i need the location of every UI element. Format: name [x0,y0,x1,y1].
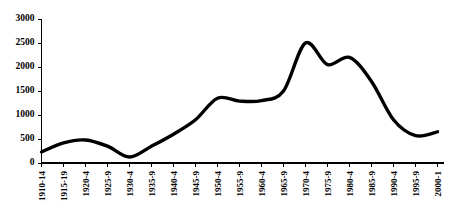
x-axis: 1910-141915-191920-41925-91930-41935-919… [37,163,444,201]
y-tick-label: 0 [30,157,35,167]
x-tick-label: 1925-9 [103,171,113,197]
data-line-value [42,42,438,157]
x-tick-label: 1970-4 [301,171,311,197]
x-tick-label: 2000-1 [433,171,443,197]
x-tick-label: 1995-9 [411,171,421,197]
y-tick-label: 2000 [16,61,35,71]
line-chart: 050010001500200025003000 1910-141915-191… [0,0,456,218]
x-tick-label: 1915-19 [59,171,69,201]
x-tick-label: 1990-4 [389,171,399,197]
chart-container: 050010001500200025003000 1910-141915-191… [0,0,456,218]
y-tick-label: 3000 [16,13,35,23]
x-tick-label: 1950-4 [213,171,223,197]
y-axis: 050010001500200025003000 [16,13,42,167]
data-series-group [42,42,438,157]
y-tick-label: 1500 [16,85,35,95]
y-tick-label: 500 [20,133,35,143]
x-tick-label: 1935-9 [147,171,157,197]
x-tick-label: 1930-4 [125,171,135,197]
x-tick-label: 1940-4 [169,171,179,197]
x-tick-label: 1965-9 [279,171,289,197]
x-tick-label: 1975-9 [323,171,333,197]
x-tick-label: 1960-4 [257,171,267,197]
y-tick-label: 2500 [16,37,35,47]
y-tick-label: 1000 [16,109,35,119]
x-tick-label: 1980-4 [345,171,355,197]
x-tick-label: 1910-14 [37,171,47,201]
x-tick-label: 1945-9 [191,171,201,197]
x-tick-label: 1985-9 [367,171,377,197]
x-tick-label: 1955-9 [235,171,245,197]
x-tick-label: 1920-4 [81,171,91,197]
